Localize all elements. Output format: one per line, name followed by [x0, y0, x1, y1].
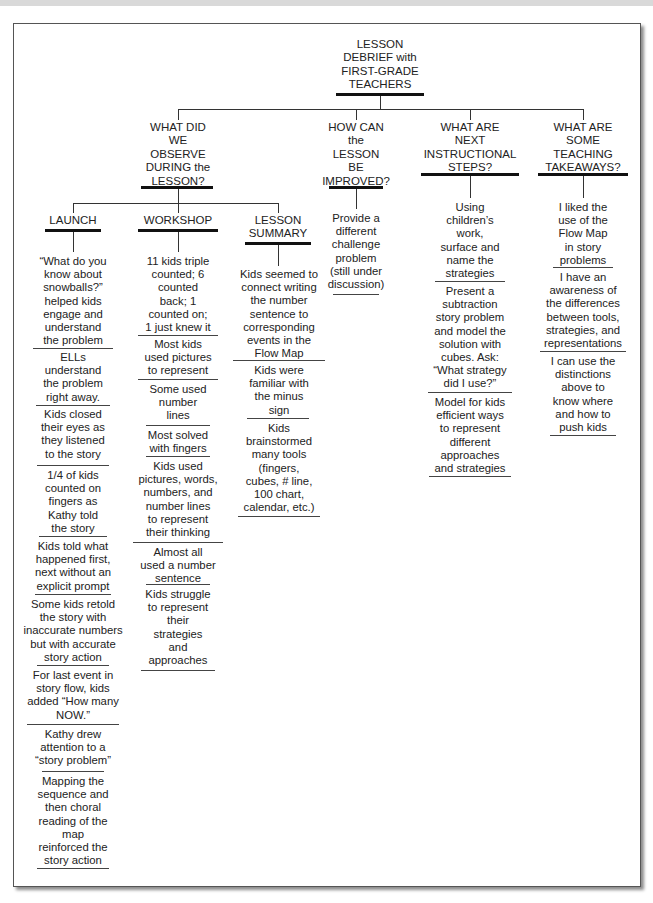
launch-item: 1/4 of kids counted on fingers as Kathy …	[18, 469, 128, 535]
workshop-connector	[178, 232, 179, 252]
connector-takeaways	[583, 109, 584, 120]
next-item: Model for kids efficient ways to represe…	[415, 396, 525, 475]
subcategory-workshop: WORKSHOP	[128, 214, 228, 227]
summary-item: Kids were familiar with the minus sign	[223, 364, 335, 417]
connector-workshop	[178, 203, 179, 213]
separator	[37, 465, 109, 466]
separator	[138, 335, 218, 336]
connector-summary	[278, 203, 279, 213]
separator	[146, 584, 210, 585]
takeaways-connector	[583, 176, 584, 198]
root-connector	[380, 96, 381, 109]
separator	[141, 670, 215, 671]
question-takeaways: WHAT ARE SOME TEACHING TAKEAWAYS?	[533, 121, 633, 175]
separator	[37, 868, 109, 869]
workshop-item: Kids used pictures, words, numbers, and …	[123, 460, 233, 539]
launch-item: Kids told what happened first, next with…	[18, 540, 128, 593]
observe-connector	[178, 189, 179, 203]
separator	[37, 665, 109, 666]
next-connector	[470, 176, 471, 198]
separator	[435, 281, 505, 282]
separator	[540, 351, 626, 352]
takeaways-item: I liked the use of the Flow Map in story…	[528, 201, 638, 267]
separator	[27, 724, 119, 725]
separator	[550, 435, 616, 436]
connector-launch	[73, 203, 74, 213]
separator	[247, 418, 309, 419]
separator	[553, 267, 613, 268]
connector-next	[470, 109, 471, 120]
subcategory-launch: LAUNCH	[33, 214, 113, 227]
workshop-item: Most kids used pictures to represent	[123, 338, 233, 378]
separator	[333, 294, 379, 295]
separator	[36, 405, 110, 406]
workshop-item: Kids struggle to represent their strateg…	[123, 588, 233, 667]
separator	[428, 392, 512, 393]
next-item: Using children’s work, surface and name …	[415, 201, 525, 280]
summary-item: Kids brainstormed many tools (fingers, c…	[223, 422, 335, 514]
top-caption-bar	[0, 0, 653, 6]
launch-item: Kids closed their eyes as they listened …	[18, 408, 128, 461]
launch-item: For last event in story flow, kids added…	[18, 669, 128, 722]
observe-sub-connector	[73, 203, 279, 204]
launch-item: Mapping the sequence and then choral rea…	[18, 775, 128, 867]
launch-item: “What do you know about snowballs?” help…	[18, 255, 128, 347]
observe-underline	[141, 186, 213, 189]
separator	[233, 360, 325, 361]
separator	[146, 425, 210, 426]
separator	[133, 542, 223, 543]
separator	[33, 348, 113, 349]
separator	[138, 379, 218, 380]
separator	[39, 536, 107, 537]
connector-observe	[178, 109, 179, 120]
separator	[429, 476, 511, 477]
question-observe: WHAT DID WE OBSERVE DURING the LESSON?	[128, 121, 228, 188]
workshop-item: Almost all used a number sentence	[123, 546, 233, 586]
launch-item: Some kids retold the story with inaccura…	[15, 598, 131, 664]
launch-item: Kathy drew attention to a “story problem…	[18, 728, 128, 768]
separator	[238, 516, 320, 517]
takeaways-item: I have an awareness of the differences b…	[523, 271, 643, 350]
improve-connector	[356, 189, 357, 209]
next-item: Present a subtraction story problem and …	[415, 285, 525, 391]
improve-item: Provide a different challenge problem (s…	[306, 212, 406, 291]
connector-improve	[356, 109, 357, 120]
workshop-item: Some used number lines	[123, 383, 233, 423]
question-next-steps: WHAT ARE NEXT INSTRUCTIONAL STEPS?	[415, 121, 525, 175]
level1-connector	[178, 109, 584, 110]
launch-connector	[73, 232, 74, 252]
root-node: LESSON DEBRIEF with FIRST-GRADE TEACHERS	[330, 38, 430, 92]
separator	[146, 456, 210, 457]
summary-connector	[278, 245, 279, 266]
launch-item: ELLs understand the problem right away.	[18, 351, 128, 404]
separator	[35, 594, 111, 595]
takeaways-item: I can use the distinctions above to know…	[528, 355, 638, 434]
workshop-item: 11 kids triple counted; 6 counted back; …	[123, 255, 233, 334]
separator	[42, 771, 104, 772]
workshop-item: Most solved with fingers	[123, 429, 233, 455]
question-improve: HOW CAN the LESSON BE IMPROVED?	[316, 121, 396, 188]
